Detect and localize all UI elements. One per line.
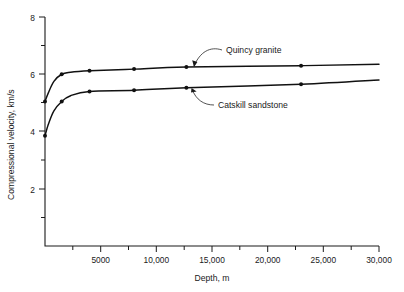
annotation-label-quincy-granite: Quincy granite	[226, 45, 282, 55]
data-point	[299, 64, 303, 68]
data-point	[43, 134, 47, 138]
data-point	[299, 82, 303, 86]
data-point	[43, 99, 47, 103]
chart-svg: 8 6 4 2 Compressional velocity, km/s 500…	[0, 0, 404, 292]
x-tick-label-25000: 25,000	[310, 255, 336, 265]
x-tick-label-20000: 20,000	[255, 255, 281, 265]
x-tick-label-5000: 5000	[91, 255, 110, 265]
x-tick-label-15000: 15,000	[199, 255, 225, 265]
data-point	[60, 72, 64, 76]
data-point	[132, 88, 136, 92]
data-point	[88, 89, 92, 93]
data-point	[184, 86, 188, 90]
y-tick-label-6: 6	[30, 70, 35, 80]
y-tick-label-4: 4	[30, 127, 35, 137]
chart-background	[0, 0, 404, 292]
chart-figure: 8 6 4 2 Compressional velocity, km/s 500…	[0, 0, 404, 292]
annotation-label-catskill-sandstone: Catskill sandstone	[218, 100, 288, 110]
data-point	[184, 65, 188, 69]
x-tick-label-30000: 30,000	[366, 255, 392, 265]
y-tick-label-8: 8	[30, 13, 35, 23]
y-axis-title: Compressional velocity, km/s	[6, 89, 16, 200]
y-tick-label-2: 2	[30, 185, 35, 195]
data-point	[60, 99, 64, 103]
data-point	[88, 69, 92, 73]
data-point	[132, 67, 136, 71]
x-tick-label-10000: 10,000	[143, 255, 169, 265]
x-axis-title: Depth, m	[195, 273, 230, 283]
